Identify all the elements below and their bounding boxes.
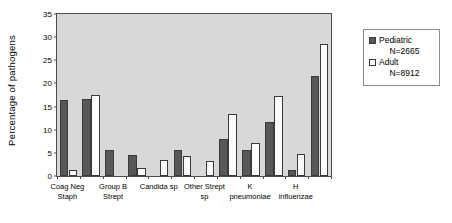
bar-group [80,14,103,176]
bar-pediatric [311,76,320,176]
y-axis-tick-label: 15 [43,102,57,111]
x-axis-tick-mark [103,176,104,179]
bar-adult [183,156,192,176]
legend-entry-label: Pediatric [379,35,434,46]
x-axis-tick-mark [57,176,58,179]
bar-adult [91,95,100,176]
x-axis-tick-label: H influenzae [271,182,321,201]
y-axis-tick-label: 5 [48,148,57,157]
legend-entry-text: PediatricN=2665 [379,35,434,57]
legend-swatch-ped [369,37,376,44]
bar-group [308,14,331,176]
x-axis-tick-mark [80,176,81,179]
bar-pediatric [265,122,274,176]
bar-pediatric [82,99,91,176]
y-axis-tick-label: 35 [43,10,57,19]
bar-group [217,14,240,176]
bar-adult [206,161,215,176]
y-axis-tick-label: 10 [43,125,57,134]
y-axis-title: Percentage of pathogens [2,0,20,180]
y-axis-tick-label: 20 [43,79,57,88]
bar-group [148,14,171,176]
bar-group [171,14,194,176]
bar-group [103,14,126,176]
bar-group [57,14,80,176]
x-axis-tick-mark [240,176,241,179]
bar-pediatric [219,139,228,176]
legend-entry-count: N=8912 [379,68,434,79]
bar-group [126,14,149,176]
x-axis-tick-label: Other Strept sp [179,182,229,201]
bar-pediatric [242,150,251,176]
bar-adult [274,96,283,176]
x-axis-tick-label: Group B Strept [88,182,138,201]
legend-entry-count: N=2665 [379,46,434,57]
bar-group [263,14,286,176]
x-axis-tick-mark [126,176,127,179]
x-axis-tick-mark [148,176,149,179]
x-axis-tick-label: Coag Neg Staph [42,182,92,201]
bar-pediatric [288,170,297,176]
x-axis-tick-mark [217,176,218,179]
y-axis-tick-label: 0 [48,172,57,181]
legend-swatch-adult [369,59,376,66]
x-axis-tick-label: Candida sp [134,182,184,192]
plot-area: 05101520253035 [56,13,332,177]
plot-inner: 05101520253035 [57,14,331,176]
bar-pediatric [60,100,69,176]
y-axis-title-text: Percentage of pathogens [6,35,17,146]
bar-adult [297,154,306,176]
y-axis-tick-label: 30 [43,33,57,42]
legend-entry: PediatricN=2665 [369,35,434,57]
x-axis-tick-mark [171,176,172,179]
x-axis-tick-mark [331,176,332,179]
x-axis-tick-mark [194,176,195,179]
bar-adult [228,114,237,176]
chart-legend: PediatricN=2665AdultN=8912 [363,29,440,86]
bar-adult [160,160,169,176]
x-axis-tick-mark [308,176,309,179]
bar-group [194,14,217,176]
bar-adult [137,168,146,176]
legend-entry-label: Adult [379,57,434,68]
bar-adult [320,44,329,176]
bar-pediatric [174,150,183,176]
legend-entry: AdultN=8912 [369,57,434,79]
bar-adult [69,170,78,176]
bar-group [285,14,308,176]
bar-adult [251,143,260,176]
bar-pediatric [105,150,114,176]
legend-entry-text: AdultN=8912 [379,57,434,79]
x-axis-tick-mark [285,176,286,179]
y-axis-tick-label: 25 [43,56,57,65]
x-axis-tick-label: K pneumoniae [225,182,275,201]
bar-pediatric [128,155,137,176]
chart-figure: Percentage of pathogens 05101520253035 P… [0,0,452,223]
bar-group [240,14,263,176]
x-axis-tick-mark [263,176,264,179]
